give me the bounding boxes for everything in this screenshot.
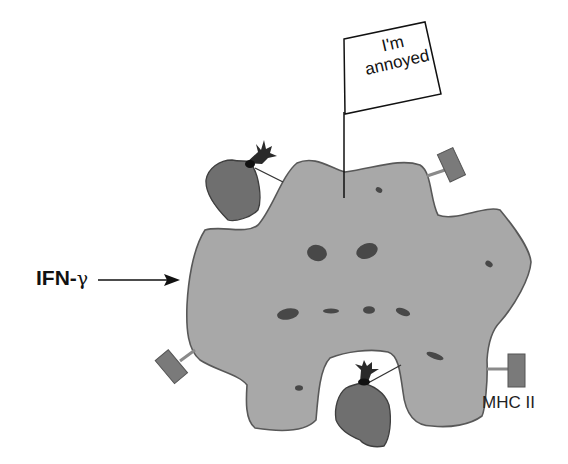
mhc-ii-label: MHC II	[482, 393, 535, 413]
antigen-particle-lower	[335, 360, 401, 447]
mhc-stalk	[427, 170, 445, 176]
gamma-symbol: γ	[77, 267, 88, 289]
organelle	[363, 306, 375, 314]
ifn-gamma-label: IFN-γ	[36, 266, 88, 290]
mhc-ii-receptor	[508, 354, 525, 387]
organelle	[323, 309, 339, 314]
bacterium	[335, 383, 390, 447]
mhc-ii-receptor	[437, 148, 465, 182]
ifn-prefix: IFN-	[36, 266, 77, 289]
mhc-stalk	[180, 350, 195, 361]
bacterium	[206, 160, 260, 221]
ifn-arrow	[98, 274, 180, 286]
organelle	[295, 385, 303, 391]
mhc-ii-receptor	[155, 350, 187, 384]
